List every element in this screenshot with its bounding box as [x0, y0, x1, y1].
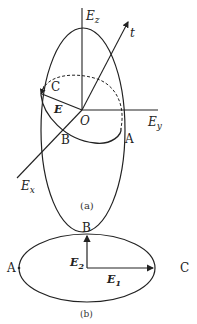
- t-label: t: [130, 26, 135, 40]
- caption-b: (b): [80, 309, 93, 319]
- b-point-c-label: C: [180, 261, 189, 275]
- point-c-label: C: [51, 80, 60, 94]
- point-a-dot: [18, 267, 21, 270]
- caption-a: (a): [80, 200, 94, 211]
- b-point-b-label: B: [82, 221, 91, 235]
- t-axis: [82, 22, 128, 110]
- e-vector-label: E: [53, 103, 63, 116]
- origin-label: O: [80, 114, 90, 128]
- ex-label: Ex: [20, 179, 35, 195]
- b-point-a-label: A: [6, 261, 16, 275]
- e2-label: E2: [69, 256, 84, 271]
- e1-label: E1: [106, 273, 121, 288]
- ex-axis: [17, 110, 82, 178]
- point-a-label: A: [124, 132, 134, 146]
- polarization-diagram: Ez t Ey Ex O E C B A (a) B A C E2 E1 (b): [0, 0, 197, 324]
- figure-b: B A C E2 E1 (b): [6, 221, 189, 319]
- figure-a: Ez t Ey Ex O E C B A (a): [17, 8, 163, 232]
- ey-label: Ey: [147, 115, 163, 131]
- point-b-label: B: [61, 133, 70, 147]
- ez-label: Ez: [85, 9, 100, 25]
